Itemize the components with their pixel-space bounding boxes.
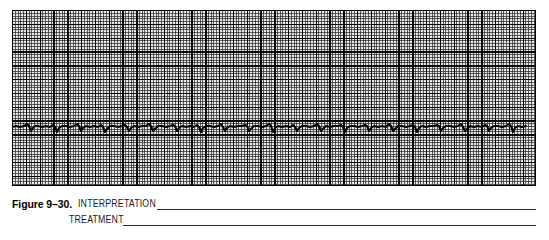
figure-number-label: Figure 9–30. [12, 198, 72, 212]
interpretation-label: INTERPRETATION [78, 198, 156, 212]
treatment-answer-rule[interactable] [123, 225, 536, 226]
treatment-label: TREATMENT [69, 214, 124, 228]
interpretation-answer-rule[interactable] [157, 209, 536, 210]
ecg-waveform-trace [12, 10, 536, 186]
caption-row-treatment: TREATMENT [12, 211, 536, 228]
caption-row-interpretation: Figure 9–30. INTERPRETATION [12, 195, 536, 212]
figure-page: Figure 9–30. INTERPRETATION TREATMENT [0, 0, 549, 240]
figure-caption-block: Figure 9–30. INTERPRETATION TREATMENT [12, 195, 536, 237]
ecg-rhythm-strip [12, 10, 536, 186]
